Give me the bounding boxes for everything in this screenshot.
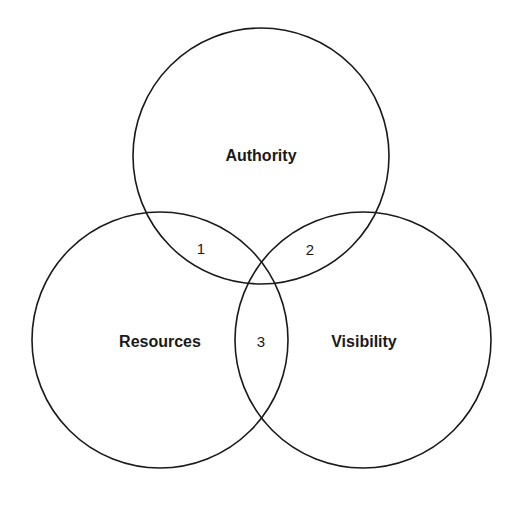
region-2-label: 2 xyxy=(306,241,314,258)
resources-label: Resources xyxy=(119,333,201,350)
region-1-label: 1 xyxy=(197,240,205,257)
visibility-label: Visibility xyxy=(331,333,397,350)
venn-diagram: Authority Resources Visibility 1 2 3 xyxy=(0,0,517,505)
authority-label: Authority xyxy=(225,147,296,164)
region-3-label: 3 xyxy=(257,333,265,350)
